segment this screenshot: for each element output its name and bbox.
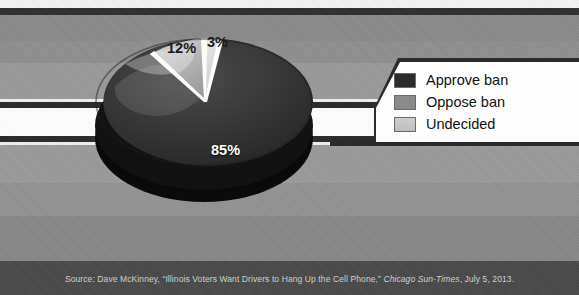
legend-item-oppose-ban[interactable]: Oppose ban — [394, 92, 574, 112]
source-suffix: , July 5, 2013. — [460, 274, 514, 284]
pie-value-label-undecided: 3% — [207, 34, 228, 50]
source-publication: Chicago Sun-Times — [383, 274, 459, 284]
background-band-dark-1 — [0, 8, 579, 15]
legend-label-undecided: Undecided — [426, 117, 495, 132]
background-band-white-top — [0, 0, 579, 8]
pie-value-label-oppose-ban: 12% — [167, 40, 196, 56]
pie-value-label-approve-ban: 85% — [211, 142, 240, 158]
pie-chart: 85% 12% 3% — [88, 22, 328, 237]
pie-top-face — [95, 38, 313, 166]
legend-swatch-oppose-ban — [394, 95, 416, 110]
source-citation: Source: Dave McKinney, “Illinois Voters … — [0, 274, 579, 284]
legend-label-approve-ban: Approve ban — [426, 73, 508, 88]
source-prefix: Source: Dave McKinney, “Illinois Voters … — [65, 274, 383, 284]
legend-item-approve-ban[interactable]: Approve ban — [394, 70, 574, 90]
chart-legend: Approve ban Oppose ban Undecided — [394, 70, 574, 136]
legend-swatch-approve-ban — [394, 73, 416, 88]
legend-swatch-undecided — [394, 117, 416, 132]
legend-item-undecided[interactable]: Undecided — [394, 114, 574, 134]
legend-label-oppose-ban: Oppose ban — [426, 95, 505, 110]
chart-canvas: Approve ban Oppose ban Undecided — [0, 0, 579, 295]
